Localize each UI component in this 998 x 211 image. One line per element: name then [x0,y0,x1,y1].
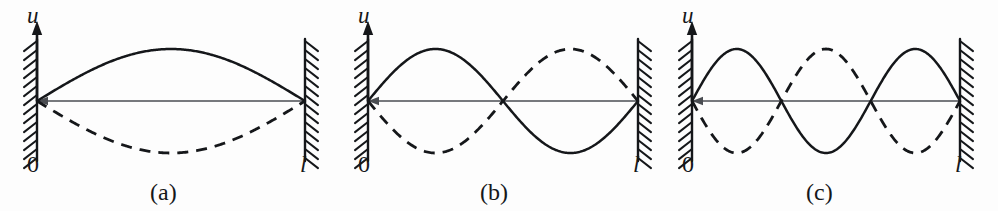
standing-wave-figure: u0l(a)u0l(b)u0l(c) [0,0,998,211]
left-wall-hatching-3 [679,39,692,168]
origin-tick-label-3: 0 [682,152,694,176]
right-wall-hatching-3 [960,39,973,168]
length-tick-label-3: l [955,152,962,176]
x-axis-3 [692,97,960,105]
wave-plot-3 [0,0,998,211]
panel-caption-3: (c) [806,180,833,204]
u-axis-label-3: u [682,4,694,27]
